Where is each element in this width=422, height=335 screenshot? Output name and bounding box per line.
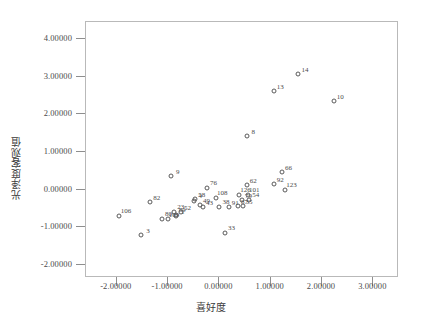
scatter-plot: 4.000003.000002.000001.000000.00000-1.00… — [0, 0, 422, 335]
data-point-label: 3 — [146, 227, 150, 235]
data-point — [244, 134, 249, 139]
x-tick-label: -2.00000 — [100, 281, 131, 291]
data-point — [223, 230, 228, 235]
data-point-label: 10 — [337, 93, 344, 101]
y-tick-mark — [76, 226, 85, 227]
x-tick-label: -1.00000 — [151, 281, 182, 291]
x-tick-label: 2.00000 — [307, 281, 335, 291]
data-point — [247, 197, 252, 202]
data-point — [178, 210, 183, 215]
data-point-label: 43 — [206, 199, 213, 207]
data-point — [139, 233, 144, 238]
x-tick-label: 0.00000 — [204, 281, 232, 291]
x-tick-label: 3.00000 — [358, 281, 386, 291]
data-point-label: 66 — [285, 164, 292, 172]
data-point — [271, 182, 276, 187]
data-point — [217, 204, 222, 209]
y-tick-mark — [76, 76, 85, 77]
data-point-label: 108 — [217, 189, 228, 197]
y-tick-label: -2.00000 — [41, 259, 72, 269]
plot-area — [85, 21, 398, 277]
data-point-label: 92 — [277, 176, 284, 184]
x-axis-title: 喜好度 — [0, 299, 422, 314]
data-point — [331, 99, 336, 104]
data-point-label: 14 — [301, 66, 308, 74]
y-tick-label: 3.00000 — [44, 71, 72, 81]
data-point-label: 33 — [228, 224, 235, 232]
y-tick-mark — [76, 113, 85, 114]
data-point-label: 82 — [153, 194, 160, 202]
x-tick-label: 1.00000 — [256, 281, 284, 291]
data-point — [280, 170, 285, 175]
data-point — [244, 183, 249, 188]
data-point — [174, 214, 179, 219]
y-tick-label: -1.00000 — [41, 221, 72, 231]
data-point — [271, 89, 276, 94]
y-tick-label: 1.00000 — [44, 146, 72, 156]
data-point — [193, 197, 198, 202]
y-tick-mark — [76, 38, 85, 39]
data-point — [240, 198, 245, 203]
y-axis-title: 光泽度客观值 — [9, 136, 24, 199]
data-point — [169, 174, 174, 179]
data-point — [296, 72, 301, 77]
data-point-label: 13 — [277, 83, 284, 91]
y-tick-label: 2.00000 — [44, 108, 72, 118]
y-tick-label: 4.00000 — [44, 33, 72, 43]
data-point — [201, 205, 206, 210]
data-point-label: 54 — [252, 191, 259, 199]
data-point-label: 123 — [286, 181, 297, 189]
data-point — [159, 216, 164, 221]
data-point-label: 52 — [184, 204, 191, 212]
y-tick-label: 0.00000 — [44, 184, 72, 194]
data-point — [240, 204, 245, 209]
y-tick-mark — [76, 151, 85, 152]
data-point — [148, 200, 153, 205]
data-point — [226, 205, 231, 210]
data-point-label: 106 — [121, 207, 132, 215]
data-point-label: 8 — [251, 128, 255, 136]
data-point — [205, 185, 210, 190]
data-point-label: 9 — [176, 168, 180, 176]
data-point-label: 76 — [210, 179, 217, 187]
data-point-label: 62 — [250, 177, 257, 185]
y-tick-mark — [76, 189, 85, 190]
y-tick-mark — [76, 264, 85, 265]
